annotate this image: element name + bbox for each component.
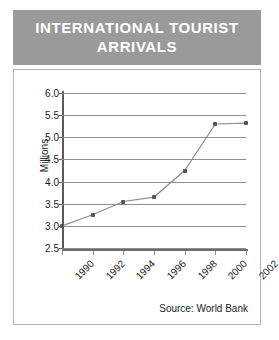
x-tick-label: 1992 <box>103 258 127 282</box>
chart-figure: INTERNATIONAL TOURIST ARRIVALS INTERNATI… <box>0 0 275 340</box>
y-tick-label: 3.5 <box>29 198 59 209</box>
y-tick-label: 4.0 <box>29 176 59 187</box>
x-tick-label: 2000 <box>226 258 250 282</box>
title-line-two: ARRIVALS <box>35 38 238 57</box>
plot-area <box>62 93 246 248</box>
x-tick-mark <box>62 251 63 255</box>
x-tick-mark <box>154 251 155 255</box>
chart-panel: Millions 6.05.55.04.54.03.53.02.5 199019… <box>13 69 261 325</box>
page-title: INTERNATIONAL TOURIST ARRIVALS INTERNATI… <box>35 19 238 57</box>
data-point-marker <box>213 122 217 126</box>
x-tick-mark <box>93 251 94 255</box>
data-point-marker <box>60 224 64 228</box>
y-axis-tick-labels: 6.05.55.04.54.03.53.02.5 <box>26 93 59 248</box>
y-tick-label: 5.0 <box>29 132 59 143</box>
series-line <box>62 93 246 248</box>
x-tick-label: 2002 <box>257 258 275 282</box>
y-tick-label: 2.5 <box>29 243 59 254</box>
y-tick-label: 4.5 <box>29 154 59 165</box>
x-tick-mark <box>215 251 216 255</box>
data-point-marker <box>91 213 95 217</box>
series-path <box>62 123 246 226</box>
x-tick-mark <box>246 251 247 255</box>
x-tick-label: 1998 <box>195 258 219 282</box>
x-tick-label: 1994 <box>134 258 158 282</box>
x-tick-mark <box>123 251 124 255</box>
title-line-one: INTERNATIONAL TOURIST <box>35 19 238 38</box>
x-tick-label: 1996 <box>165 258 189 282</box>
y-tick-label: 6.0 <box>29 88 59 99</box>
data-point-marker <box>121 200 125 204</box>
data-point-marker <box>152 195 156 199</box>
chart-title-banner: INTERNATIONAL TOURIST ARRIVALS INTERNATI… <box>13 10 261 65</box>
y-tick-label: 3.0 <box>29 220 59 231</box>
x-axis-line <box>62 249 248 251</box>
x-tick-label: 1990 <box>73 258 97 282</box>
x-tick-mark <box>185 251 186 255</box>
source-note: Source: World Bank <box>159 303 248 314</box>
data-point-marker <box>244 121 248 125</box>
y-tick-label: 5.5 <box>29 110 59 121</box>
data-point-marker <box>183 169 187 173</box>
